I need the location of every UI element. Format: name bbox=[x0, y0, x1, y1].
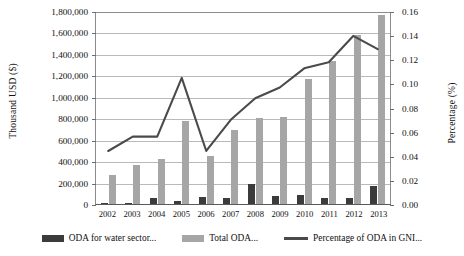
y-tick-label-right: 0.06 bbox=[402, 129, 418, 138]
y-axis-ticks-left: 0200,000400,000600,000800,0001,000,0001,… bbox=[24, 8, 88, 208]
x-tick-label: 2003 bbox=[120, 207, 145, 221]
y-tick-label-right: 0.02 bbox=[402, 177, 418, 186]
y-tickmark-right bbox=[390, 36, 394, 37]
x-tick-label: 2007 bbox=[218, 207, 243, 221]
y-tick-label-left: 600,000 bbox=[58, 137, 88, 146]
x-tick-label: 2006 bbox=[194, 207, 219, 221]
y-tickmark-right bbox=[390, 157, 394, 158]
y-tickmark-left bbox=[92, 205, 96, 206]
chart-legend: ODA for water sector...Total ODA...Perce… bbox=[14, 228, 450, 248]
y-tickmark-right bbox=[390, 109, 394, 110]
y-tick-label-right: 0.10 bbox=[402, 80, 418, 89]
y-tickmark-right bbox=[390, 133, 394, 134]
legend-swatch-icon bbox=[284, 237, 308, 240]
y-tick-label-left: 400,000 bbox=[58, 158, 88, 167]
plot-area bbox=[95, 12, 391, 205]
legend-label: Percentage of ODA in GNI... bbox=[313, 233, 422, 243]
legend-item[interactable]: Total ODA... bbox=[182, 233, 258, 243]
x-tick-label: 2010 bbox=[292, 207, 317, 221]
y-tick-label-left: 1,400,000 bbox=[51, 51, 88, 60]
y-tick-label-left: 1,800,000 bbox=[51, 8, 88, 17]
y-tickmark-right bbox=[390, 84, 394, 85]
y-tick-label-right: 0.14 bbox=[402, 32, 418, 41]
y-tickmark-right bbox=[390, 12, 394, 13]
y-tick-label-right: 0.00 bbox=[402, 201, 418, 210]
x-axis-labels: 2002200320042005200620072008200920102011… bbox=[95, 207, 391, 221]
percentage-line bbox=[108, 36, 377, 151]
y-tickmark-right bbox=[390, 205, 394, 206]
y-tickmark-right bbox=[390, 60, 394, 61]
y-axis-title-right: Percentage (%) bbox=[447, 53, 457, 173]
x-tick-label: 2012 bbox=[342, 207, 367, 221]
y-axis-title-left: Thousand USD ($) bbox=[8, 36, 18, 166]
legend-swatch-icon bbox=[42, 235, 64, 242]
x-tick-label: 2009 bbox=[268, 207, 293, 221]
y-tick-label-left: 1,000,000 bbox=[51, 94, 88, 103]
legend-swatch-icon bbox=[182, 235, 204, 242]
y-tick-label-right: 0.08 bbox=[402, 105, 418, 114]
y-tick-label-right: 0.16 bbox=[402, 8, 418, 17]
y-tickmark-right bbox=[390, 181, 394, 182]
y-tick-label-left: 1,600,000 bbox=[51, 29, 88, 38]
x-tick-label: 2013 bbox=[366, 207, 391, 221]
x-tick-label: 2002 bbox=[95, 207, 120, 221]
legend-label: Total ODA... bbox=[209, 233, 258, 243]
legend-label: ODA for water sector... bbox=[69, 233, 156, 243]
y-tick-label-right: 0.04 bbox=[402, 153, 418, 162]
chart-container: Thousand USD ($) Percentage (%) 0200,000… bbox=[0, 0, 464, 256]
x-tick-label: 2005 bbox=[169, 207, 194, 221]
legend-item[interactable]: ODA for water sector... bbox=[42, 233, 156, 243]
x-tick-label: 2011 bbox=[317, 207, 342, 221]
legend-item[interactable]: Percentage of ODA in GNI... bbox=[284, 233, 422, 243]
y-tick-label-right: 0.12 bbox=[402, 56, 418, 65]
y-tick-label-left: 0 bbox=[83, 201, 88, 210]
x-tick-label: 2004 bbox=[144, 207, 169, 221]
x-tick-label: 2008 bbox=[243, 207, 268, 221]
y-tick-label-left: 1,200,000 bbox=[51, 72, 88, 81]
line-series-overlay bbox=[96, 12, 390, 204]
y-tick-label-left: 200,000 bbox=[58, 180, 88, 189]
y-tick-label-left: 800,000 bbox=[58, 115, 88, 124]
y-axis-ticks-right: 0.000.020.040.060.080.100.120.140.16 bbox=[402, 8, 442, 208]
